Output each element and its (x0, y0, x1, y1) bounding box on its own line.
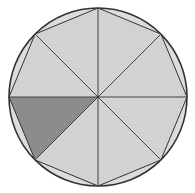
octagon-in-circle-diagram (0, 0, 195, 193)
center-spokes (9, 8, 187, 186)
